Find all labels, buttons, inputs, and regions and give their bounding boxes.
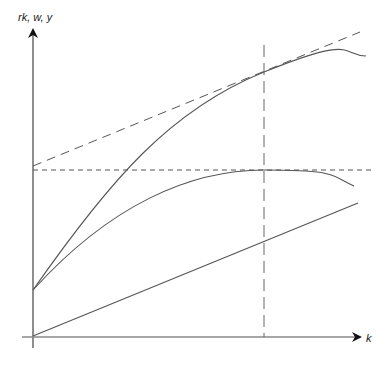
y-axis-label: rk, w, y (18, 11, 54, 23)
wage-curve-w (33, 170, 354, 290)
tangent-line (33, 32, 360, 166)
diagram-canvas: rk, w, y k (0, 0, 391, 365)
x-axis-label: k (366, 332, 372, 344)
